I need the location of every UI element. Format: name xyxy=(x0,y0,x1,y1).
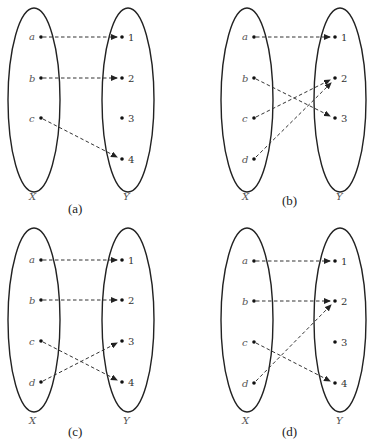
set-y-ellipse xyxy=(314,228,366,412)
set-y-label: Y xyxy=(123,191,131,202)
mapping-arrow xyxy=(43,342,117,380)
mapping-arrow xyxy=(256,305,331,381)
codomain-label: 1 xyxy=(341,32,347,43)
codomain-point xyxy=(333,259,337,263)
codomain-point xyxy=(120,76,124,80)
domain-label: a xyxy=(242,31,248,42)
set-x-label: X xyxy=(241,415,250,426)
codomain-point xyxy=(120,380,124,384)
codomain-point xyxy=(333,340,337,344)
domain-point xyxy=(252,259,256,263)
domain-point xyxy=(252,76,256,80)
function-mapping-diagrams: a b c 1 2 3 4 X Y (a) a b c d 1 2 xyxy=(0,0,375,444)
mapping-arrow xyxy=(256,79,330,116)
codomain-label: 3 xyxy=(128,113,134,124)
codomain-label: 4 xyxy=(128,154,134,165)
domain-point xyxy=(252,340,256,344)
set-y-label: Y xyxy=(123,415,131,426)
domain-point xyxy=(252,35,256,39)
codomain-point xyxy=(333,116,337,120)
domain-label: b xyxy=(29,295,35,306)
domain-label: a xyxy=(29,31,35,42)
panel-a: a b c 1 2 3 4 X Y (a) xyxy=(8,8,154,216)
domain-point xyxy=(39,339,43,343)
set-y-ellipse xyxy=(314,8,366,192)
codomain-point xyxy=(120,116,124,120)
codomain-label: 1 xyxy=(128,32,134,43)
domain-point xyxy=(252,299,256,303)
codomain-label: 3 xyxy=(341,113,347,124)
panel-c: a b c d 1 2 3 4 X Y (c) xyxy=(8,228,154,439)
codomain-point xyxy=(333,35,337,39)
codomain-label: 1 xyxy=(128,255,134,266)
panel-d: a b c d 1 2 3 4 X Y (d) xyxy=(221,228,366,439)
domain-point xyxy=(252,157,256,161)
panel-caption: (d) xyxy=(282,424,297,439)
set-y-label: Y xyxy=(336,415,344,426)
codomain-label: 3 xyxy=(341,337,347,348)
domain-point xyxy=(39,380,43,384)
codomain-point xyxy=(120,339,124,343)
panel-caption: (a) xyxy=(68,201,82,216)
codomain-point xyxy=(120,35,124,39)
domain-label: c xyxy=(29,113,35,124)
domain-label: d xyxy=(242,378,248,389)
domain-label: c xyxy=(29,336,35,347)
codomain-point xyxy=(333,76,337,80)
domain-point xyxy=(39,116,43,120)
panel-b: a b c d 1 2 3 X Y (b) xyxy=(221,8,366,208)
set-x-label: X xyxy=(28,415,37,426)
domain-label: b xyxy=(29,73,35,84)
codomain-label: 2 xyxy=(341,73,347,84)
domain-point xyxy=(39,35,43,39)
codomain-label: 3 xyxy=(128,336,134,347)
domain-point xyxy=(252,116,256,120)
codomain-label: 2 xyxy=(128,73,134,84)
domain-label: a xyxy=(29,254,35,265)
domain-label: b xyxy=(242,73,248,84)
codomain-label: 4 xyxy=(128,377,134,388)
panel-caption: (c) xyxy=(68,424,82,439)
panel-caption: (b) xyxy=(282,193,297,208)
codomain-point xyxy=(120,298,124,302)
codomain-point xyxy=(120,258,124,262)
codomain-label: 2 xyxy=(341,296,347,307)
domain-point xyxy=(39,298,43,302)
codomain-point xyxy=(333,299,337,303)
domain-label: a xyxy=(242,255,248,266)
domain-point xyxy=(252,381,256,385)
domain-label: d xyxy=(242,154,248,165)
codomain-point xyxy=(120,157,124,161)
set-y-label: Y xyxy=(336,191,344,202)
set-x-label: X xyxy=(28,191,37,202)
set-x-label: X xyxy=(241,191,250,202)
codomain-label: 4 xyxy=(341,378,347,389)
domain-label: c xyxy=(242,337,248,348)
codomain-label: 2 xyxy=(128,295,134,306)
mapping-arrow xyxy=(43,343,117,381)
domain-label: d xyxy=(29,377,35,388)
codomain-point xyxy=(333,381,337,385)
domain-label: b xyxy=(242,296,248,307)
domain-point xyxy=(39,258,43,262)
mapping-arrow xyxy=(256,80,330,117)
codomain-label: 1 xyxy=(341,256,347,267)
mapping-arrow xyxy=(256,83,331,157)
domain-label: c xyxy=(242,113,248,124)
domain-point xyxy=(39,76,43,80)
